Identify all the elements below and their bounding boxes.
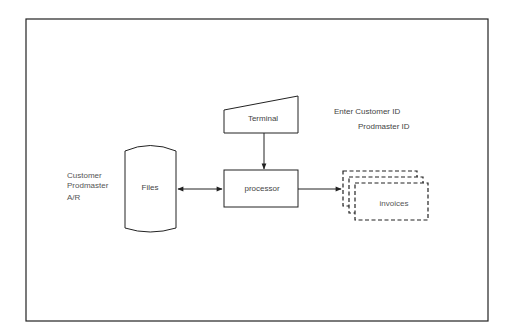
processor-label: processor xyxy=(244,184,279,193)
files-list-annotation: Customer Prodmaster A/R xyxy=(67,171,109,202)
terminal-label: Terminal xyxy=(248,114,278,123)
terminal-input-item: Enter Customer ID xyxy=(334,107,400,116)
invoices-node xyxy=(343,171,428,220)
terminal-inputs-annotation: Enter Customer ID Prodmaster ID xyxy=(334,107,410,131)
invoices-label: invoices xyxy=(380,199,409,208)
terminal-node: Terminal xyxy=(224,96,298,133)
files-label: Files xyxy=(142,183,159,192)
files-list-item: A/R xyxy=(67,193,81,202)
files-node: Files xyxy=(125,146,176,233)
files-list-item: Prodmaster xyxy=(67,181,109,190)
files-list-item: Customer xyxy=(67,171,102,180)
diagram-canvas: Terminal processor Files invoices Custom… xyxy=(0,0,512,334)
processor-node: processor xyxy=(224,170,298,207)
terminal-input-item: Prodmaster ID xyxy=(358,122,410,131)
